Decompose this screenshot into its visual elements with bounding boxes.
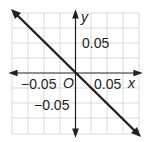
x-axis-label: x: [128, 76, 135, 90]
x-tick-label-positive: 0.05: [94, 77, 121, 91]
x-tick-label-negative: −0.05: [21, 77, 56, 91]
y-axis-label: y: [81, 10, 88, 24]
origin-label: O: [63, 76, 74, 90]
coordinate-plane: [0, 0, 144, 142]
y-tick-label-positive: 0.05: [82, 36, 109, 50]
y-tick-label-negative: −0.05: [34, 98, 69, 112]
